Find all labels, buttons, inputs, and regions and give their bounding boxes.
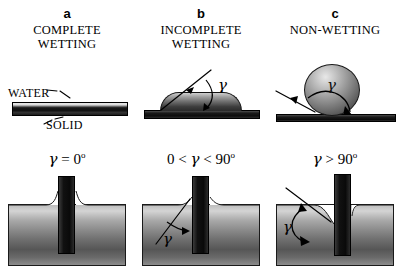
vertical-plate-a	[58, 176, 75, 254]
panel-c-title: NON-WETTING	[268, 24, 402, 38]
panel-c-eq-degree: o	[353, 150, 358, 160]
panel-c-equation: γ > 90o	[268, 150, 402, 168]
wetting-figure: a COMPLETE WETTING WATER SOLID γ = 0o	[0, 0, 404, 280]
panel-b-letter: b	[134, 6, 268, 21]
panel-b-title: INCOMPLETE WETTING	[134, 24, 268, 51]
panel-c: c NON-WETTING γ γ > 90o	[268, 0, 402, 280]
panel-b-gamma-symbol: γ	[218, 76, 227, 94]
panel-a-bottom-scene	[0, 172, 134, 276]
panel-a-eq-gamma: γ	[49, 150, 58, 168]
panel-c-eq-operator: > 90	[322, 151, 353, 167]
panel-a-title: COMPLETE WETTING	[0, 24, 134, 51]
panel-a-title-line2: WETTING	[0, 38, 134, 52]
vertical-plate-c	[334, 174, 351, 256]
panel-b-top-scene: γ	[134, 58, 268, 128]
panel-a-eq-operator: = 0	[58, 151, 81, 167]
panel-b: b INCOMPLETE WETTING γ 0 < γ < 90o	[134, 0, 268, 280]
panel-b-bottom-gamma-symbol: γ	[163, 230, 172, 248]
panel-c-top-scene: γ	[268, 58, 402, 128]
panel-a: a COMPLETE WETTING WATER SOLID γ = 0o	[0, 0, 134, 280]
panel-a-title-line1: COMPLETE	[33, 23, 101, 37]
vertical-plate-b	[192, 176, 209, 254]
panel-b-eq-prefix: 0 <	[167, 151, 190, 167]
panel-c-eq-gamma: γ	[313, 150, 322, 168]
panel-a-top-scene: WATER SOLID	[0, 58, 134, 128]
panel-c-bottom-scene: γ	[268, 172, 402, 276]
panel-b-eq-degree: o	[230, 150, 235, 160]
panel-a-letter: a	[0, 6, 134, 21]
panel-b-bottom-scene: γ	[134, 172, 268, 276]
panel-a-eq-degree: o	[81, 150, 86, 160]
panel-c-gamma-symbol: γ	[327, 76, 336, 94]
panel-a-equation: γ = 0o	[0, 150, 134, 168]
panel-c-letter: c	[268, 6, 402, 21]
panel-b-equation: 0 < γ < 90o	[134, 150, 268, 168]
panel-c-title-line1: NON-WETTING	[290, 23, 380, 37]
panel-a-leader-lines	[0, 58, 134, 128]
panel-b-title-line2: WETTING	[134, 38, 268, 52]
panel-b-title-line1: INCOMPLETE	[160, 23, 241, 37]
panel-b-eq-operator: < 90	[199, 151, 230, 167]
panel-c-bottom-gamma-symbol: γ	[283, 218, 292, 236]
panel-b-angle-annotation	[134, 58, 268, 128]
